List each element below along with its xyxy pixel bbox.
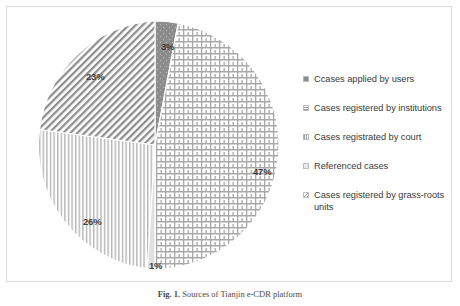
chart-legend: Ccases applied by users Cases registered…	[303, 73, 453, 213]
pie-chart: 3% 47% 1% 26% 23%	[21, 11, 289, 279]
data-label-47-percent: 47%	[253, 166, 271, 177]
data-label-26-percent: 26%	[83, 216, 101, 227]
legend-item-referenced-cases[interactable]: Referenced cases	[303, 160, 453, 172]
legend-label: Ccases applied by users	[314, 73, 414, 85]
data-label-1-percent: 1%	[149, 260, 162, 271]
legend-item-cases-registrated-by-court[interactable]: Cases registrated by court	[303, 131, 453, 143]
brick-pattern-swatch-icon	[303, 105, 309, 111]
pie-slice-cases-registered-by-grass-roots-units	[40, 21, 156, 145]
legend-label: Cases registered by grass-roots units	[314, 189, 453, 213]
chart-frame: 3% 47% 1% 26% 23% Ccases applied by user…	[6, 6, 452, 282]
figure-caption-text: Sources of Tianjin e-CDR platform	[182, 289, 302, 299]
data-label-3-percent: 3%	[161, 41, 174, 52]
legend-item-cases-registered-by-grass-roots-units[interactable]: Cases registered by grass-roots units	[303, 189, 453, 213]
data-label-23-percent: 23%	[86, 71, 104, 82]
light-gray-swatch-icon	[303, 163, 309, 169]
legend-label: Cases registered by institutions	[314, 102, 442, 114]
diagonal-hatch-swatch-icon	[303, 192, 309, 198]
pie-slice-cases-registered-by-institutions	[155, 23, 279, 269]
legend-item-cases-registered-by-institutions[interactable]: Cases registered by institutions	[303, 102, 453, 114]
figure-caption-prefix: Fig. 1.	[158, 289, 180, 299]
gray-swatch-icon	[303, 134, 309, 140]
legend-item-cases-applied-by-users[interactable]: Ccases applied by users	[303, 73, 453, 85]
pie-svg	[21, 11, 289, 279]
pie-slice-referenced-cases	[38, 130, 155, 269]
figure-root: 3% 47% 1% 26% 23% Ccases applied by user…	[0, 0, 460, 306]
legend-label: Cases registrated by court	[314, 131, 421, 143]
figure-caption: Fig. 1. Sources of Tianjin e-CDR platfor…	[0, 289, 460, 299]
legend-label: Referenced cases	[314, 160, 388, 172]
solid-gray-swatch-icon	[303, 76, 309, 82]
